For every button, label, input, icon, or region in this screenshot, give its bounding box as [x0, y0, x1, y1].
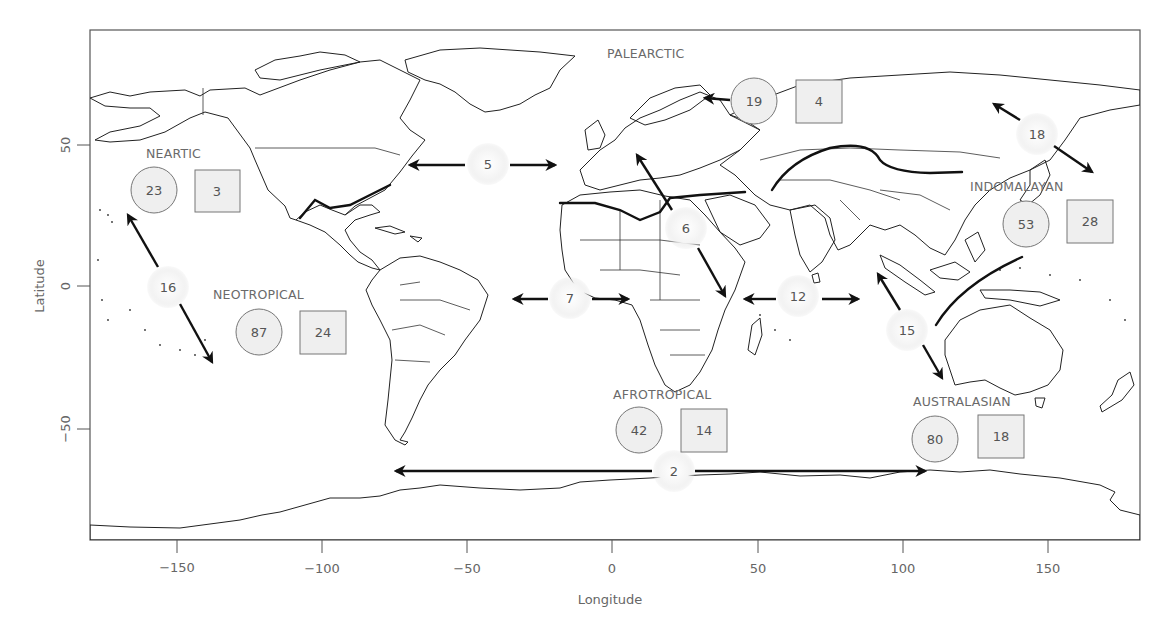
badge-12: 12 — [777, 275, 819, 317]
svg-text:50: 50 — [750, 561, 767, 576]
x-axis-title: Longitude — [578, 592, 643, 607]
svg-text:0: 0 — [608, 561, 616, 576]
svg-text:2: 2 — [670, 464, 678, 479]
circle-value: 53 — [1018, 217, 1035, 232]
svg-text:5: 5 — [484, 157, 492, 172]
badge-16: 16 — [147, 266, 189, 308]
badge-6: 6 — [665, 207, 707, 249]
x-axis — [177, 540, 1048, 553]
region-label: INDOMALAYAN — [970, 179, 1063, 194]
svg-text:−50: −50 — [453, 561, 480, 576]
svg-text:−150: −150 — [159, 560, 195, 575]
region-label: NEARTIC — [146, 146, 201, 161]
svg-text:−50: −50 — [58, 415, 73, 442]
square-value: 4 — [815, 94, 823, 109]
square-value: 28 — [1082, 214, 1099, 229]
y-tick-labels: 50 0 −50 — [58, 137, 73, 443]
circle-value: 23 — [146, 183, 163, 198]
svg-text:15: 15 — [899, 323, 916, 338]
circle-value: 80 — [927, 432, 944, 447]
square-value: 24 — [315, 325, 332, 340]
badge-5: 5 — [467, 143, 509, 185]
svg-text:16: 16 — [160, 280, 177, 295]
region-label: AFROTROPICAL — [613, 387, 711, 402]
square-value: 3 — [213, 184, 221, 199]
badge-2: 2 — [653, 450, 695, 492]
square-value: 18 — [993, 429, 1010, 444]
svg-text:18: 18 — [1029, 127, 1046, 142]
circle-value: 87 — [251, 325, 268, 340]
badge-15: 15 — [886, 309, 928, 351]
region-label: AUSTRALASIAN — [913, 394, 1011, 409]
region-label: NEOTROPICAL — [213, 287, 304, 302]
circle-value: 19 — [746, 94, 763, 109]
region-label: PALEARCTIC — [607, 46, 685, 61]
svg-text:7: 7 — [566, 291, 574, 306]
badge-7: 7 — [549, 277, 591, 319]
map-figure: 16 5 6 7 12 18 15 2 NEARTIC 23 3 PALEARC… — [0, 0, 1168, 638]
circle-value: 42 — [631, 423, 648, 438]
svg-text:6: 6 — [682, 221, 690, 236]
square-value: 14 — [696, 423, 713, 438]
svg-text:12: 12 — [790, 289, 807, 304]
y-axis — [77, 145, 90, 429]
badge-18: 18 — [1016, 113, 1058, 155]
svg-text:100: 100 — [891, 561, 916, 576]
svg-text:−100: −100 — [304, 561, 340, 576]
svg-text:50: 50 — [58, 137, 73, 154]
x-tick-labels: −150 −100 −50 0 50 100 150 — [159, 560, 1060, 576]
svg-text:0: 0 — [58, 282, 73, 290]
y-axis-title: Latitude — [32, 259, 47, 313]
plot-frame — [90, 30, 1140, 540]
svg-text:150: 150 — [1036, 561, 1061, 576]
